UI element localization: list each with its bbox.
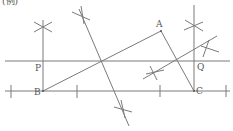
label-q: Q [197,63,204,72]
point-b [42,90,44,92]
point-a [160,30,162,32]
figure-caption: (例) [2,0,18,6]
label-b: B [34,88,41,97]
point-c [193,90,195,92]
label-a: A [156,20,163,29]
label-p: P [35,64,41,73]
geometry-construction-figure: (例) A B C P Q [0,0,233,131]
bisector-line [79,9,129,126]
label-c: C [196,87,203,96]
